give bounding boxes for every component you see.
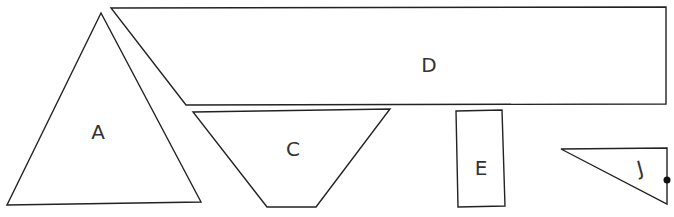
trapezoid-D [111, 7, 666, 105]
label-C: C [286, 137, 300, 161]
shape-D: D [111, 7, 666, 105]
shape-A: A [7, 13, 201, 205]
shape-J: J [561, 148, 667, 204]
shape-E: E [456, 110, 505, 207]
vertex-dot-marker [664, 177, 671, 184]
label-J: J [632, 156, 646, 181]
triangle-A [7, 13, 201, 205]
shape-C: C [193, 109, 390, 207]
shapes-diagram: A D C E J [0, 0, 674, 217]
triangle-J [561, 148, 667, 204]
label-E: E [475, 156, 488, 180]
label-D: D [421, 53, 436, 77]
label-A: A [91, 120, 105, 144]
